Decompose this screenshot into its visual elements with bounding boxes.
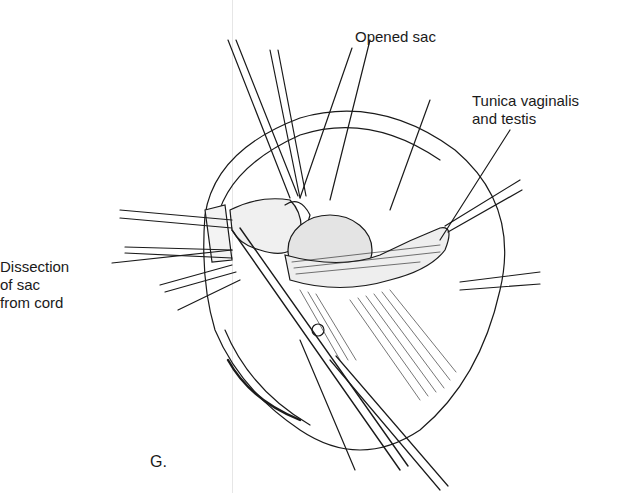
leader-opened-sac [300,48,352,198]
label-opened-sac: Opened sac [355,28,436,46]
figure-panel-letter: G. [150,453,167,471]
surgical-field-illustration [0,0,618,493]
label-dissection-of-sac: Dissection of sac from cord [0,258,69,312]
label-tunica-vaginalis-and-testis: Tunica vaginalis and testis [472,92,579,128]
